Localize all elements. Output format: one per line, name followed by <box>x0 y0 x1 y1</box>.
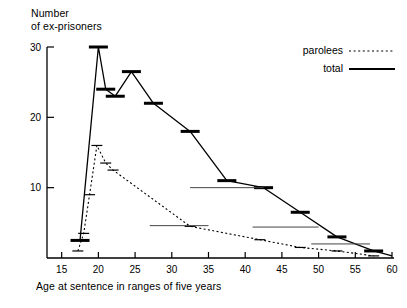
legend-label-parolees: parolees <box>303 44 343 56</box>
series-line-parolees <box>78 145 374 255</box>
x-axis-tick-label: 40 <box>240 264 252 275</box>
y-axis-tick-label: 20 <box>30 112 42 123</box>
y-axis-tick-label: 30 <box>30 42 42 53</box>
chart-container: Numberof ex-prisoners Age at sentence in… <box>0 0 407 308</box>
legend-label-total: total <box>323 62 343 74</box>
chart-plot-area: 102030 15202530354045505560 paroleestota… <box>0 0 407 308</box>
x-axis: 15202530354045505560 <box>47 252 398 275</box>
series-line-total <box>80 47 392 256</box>
x-axis-tick-label: 15 <box>56 264 68 275</box>
x-axis-tick-label: 50 <box>313 264 325 275</box>
y-axis-tick-label: 10 <box>30 182 42 193</box>
chart-series-group <box>71 47 392 256</box>
x-axis-tick-label: 35 <box>203 264 215 275</box>
x-axis-tick-label: 30 <box>166 264 178 275</box>
x-axis-tick-label: 45 <box>276 264 288 275</box>
y-axis: 102030 <box>30 42 54 259</box>
chart-legend: paroleestotal <box>303 44 395 74</box>
x-axis-tick-label: 25 <box>130 264 142 275</box>
x-axis-tick-label: 60 <box>386 264 398 275</box>
x-axis-tick-label: 20 <box>93 264 105 275</box>
x-axis-tick-label: 55 <box>350 264 362 275</box>
